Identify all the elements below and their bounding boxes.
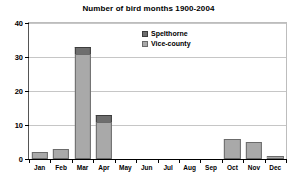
x-axis-label-aug: Aug bbox=[183, 164, 196, 171]
x-axis-label-nov: Nov bbox=[248, 164, 260, 171]
legend-item[interactable]: Vice-county bbox=[142, 39, 191, 48]
x-axis-tick bbox=[222, 159, 223, 163]
y-axis-tick-label: 30 bbox=[15, 53, 23, 62]
bar-segment-vice-county[interactable] bbox=[96, 122, 112, 159]
x-axis-tick bbox=[29, 159, 30, 163]
x-axis-tick bbox=[158, 159, 159, 163]
y-axis-tick-label: 40 bbox=[15, 19, 23, 28]
bar-segment-vice-county[interactable] bbox=[53, 149, 69, 159]
legend-swatch-icon bbox=[142, 41, 148, 47]
bar-segment-vice-county[interactable] bbox=[224, 139, 240, 159]
bar-stack[interactable] bbox=[224, 139, 240, 159]
chart-legend: SpelthorneVice-county bbox=[142, 29, 191, 49]
x-axis-label-jan: Jan bbox=[34, 164, 45, 171]
x-axis-label-jul: Jul bbox=[164, 164, 173, 171]
y-axis-tick-label: 0 bbox=[19, 155, 23, 164]
x-axis-tick bbox=[50, 159, 51, 163]
bar-stack[interactable] bbox=[74, 47, 90, 159]
bar-group[interactable] bbox=[115, 23, 136, 159]
bar-segment-vice-county[interactable] bbox=[267, 156, 283, 159]
chart-title: Number of bird months 1900-2004 bbox=[0, 4, 297, 13]
bar-segment-vice-county[interactable] bbox=[32, 152, 48, 159]
bar-segment-spelthorne[interactable] bbox=[96, 115, 112, 122]
legend-label: Vice-county bbox=[151, 40, 191, 47]
x-axis-tick bbox=[179, 159, 180, 163]
bar-group[interactable] bbox=[222, 23, 243, 159]
x-axis-label-jun: Jun bbox=[141, 164, 153, 171]
x-axis-label-oct: Oct bbox=[227, 164, 238, 171]
x-axis-label-sep: Sep bbox=[205, 164, 217, 171]
bar-group[interactable] bbox=[72, 23, 93, 159]
x-axis-label-apr: Apr bbox=[98, 164, 109, 171]
bar-stack[interactable] bbox=[96, 115, 112, 159]
bar-segment-spelthorne[interactable] bbox=[74, 47, 90, 54]
bar-chart: Number of bird months 1900-2004 01020304… bbox=[0, 0, 297, 172]
bar-stack[interactable] bbox=[53, 149, 69, 159]
legend-item[interactable]: Spelthorne bbox=[142, 29, 191, 38]
bar-segment-vice-county[interactable] bbox=[246, 142, 262, 159]
x-axis-label-may: May bbox=[119, 164, 132, 171]
bar-group[interactable] bbox=[243, 23, 264, 159]
legend-swatch-icon bbox=[142, 31, 148, 37]
bar-group[interactable] bbox=[29, 23, 50, 159]
x-axis-label-dec: Dec bbox=[269, 164, 281, 171]
bar-group[interactable] bbox=[200, 23, 221, 159]
x-axis-tick bbox=[136, 159, 137, 163]
bar-stack[interactable] bbox=[267, 156, 283, 159]
bar-stack[interactable] bbox=[32, 152, 48, 159]
x-axis-tick bbox=[93, 159, 94, 163]
x-axis-tick bbox=[243, 159, 244, 163]
x-axis-tick bbox=[265, 159, 266, 163]
bar-group[interactable] bbox=[50, 23, 71, 159]
x-axis-tick bbox=[286, 159, 287, 163]
bar-group[interactable] bbox=[265, 23, 286, 159]
bar-group[interactable] bbox=[93, 23, 114, 159]
bar-segment-vice-county[interactable] bbox=[74, 54, 90, 159]
x-axis-label-mar: Mar bbox=[77, 164, 89, 171]
x-axis-tick bbox=[72, 159, 73, 163]
y-axis-tick-label: 20 bbox=[15, 87, 23, 96]
legend-label: Spelthorne bbox=[151, 30, 188, 37]
x-axis-tick bbox=[200, 159, 201, 163]
x-axis-tick bbox=[115, 159, 116, 163]
bar-stack[interactable] bbox=[246, 142, 262, 159]
x-axis-label-feb: Feb bbox=[55, 164, 67, 171]
y-axis-tick-label: 10 bbox=[15, 121, 23, 130]
